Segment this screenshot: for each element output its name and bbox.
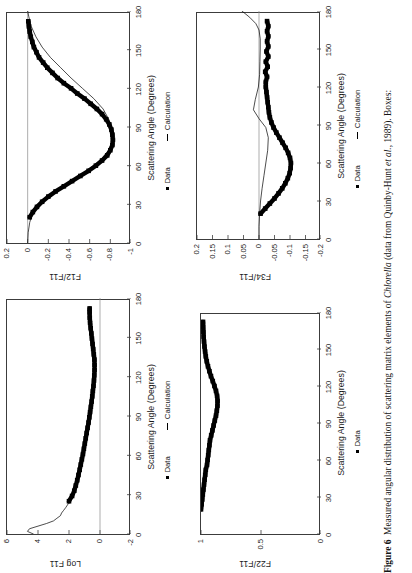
y-tick-label: -0.05	[269, 244, 278, 286]
chart-panel-f22-f11: F22/F11 10.50 0306090120150180 Scatterin…	[190, 287, 379, 573]
figure-caption-etal: et al.	[383, 147, 393, 166]
x-tick-label: 120	[324, 381, 333, 394]
x-tick-label: 60	[134, 162, 143, 170]
y-tick-label: 2	[64, 539, 73, 573]
legend-label-data: Data	[353, 165, 362, 181]
legend-label-calculation: Calculation	[163, 92, 172, 131]
x-tick-label: 120	[134, 83, 143, 96]
plot-area-f12	[6, 12, 130, 244]
figure-caption-label: Figure 6	[383, 540, 393, 573]
x-tick-label: 180	[134, 6, 143, 19]
plot-curves-f12	[7, 11, 131, 243]
x-tick-label: 150	[134, 332, 143, 345]
x-tick-label: 150	[324, 344, 333, 357]
series-calculation-path	[242, 11, 268, 239]
plot-curves-f22	[201, 312, 321, 534]
x-tick-label: 180	[324, 6, 333, 19]
y-tick-label: 0.1	[223, 244, 232, 286]
figure-caption-text-3: , 1989). Boxes:	[383, 90, 393, 147]
x-axis-title-log-f11: Scattering Angle (Degrees)	[146, 364, 156, 470]
legend-f12: Data Calculation	[163, 92, 172, 190]
y-tick-label: -0.1	[285, 244, 294, 286]
y-tick-label: -0.2	[43, 248, 52, 286]
y-tick-label: -1	[126, 248, 135, 286]
y-tick-label: 0	[254, 244, 263, 286]
legend-item-data-f12: Data	[163, 167, 172, 190]
legend-item-data-log-f11: Data	[163, 456, 172, 479]
legend-item-data-f22: Data	[353, 430, 362, 453]
x-tick-label: 0	[324, 533, 333, 537]
filled-square-marker-icon	[166, 187, 169, 190]
x-tick-label: 0	[134, 533, 143, 537]
x-tick-label: 180	[324, 307, 333, 320]
legend-item-calculation-log-f11: Calculation	[163, 381, 172, 431]
x-tick-label: 120	[134, 371, 143, 384]
chart-panel-f12-f11: F12/F11 0.20-0.2-0.4-0.6-0.8-1 030609012…	[0, 0, 189, 286]
x-tick-label: 150	[324, 44, 333, 57]
filled-square-marker-icon	[356, 185, 359, 188]
legend-label-data: Data	[163, 456, 172, 472]
y-tick-label: -0.15	[300, 244, 309, 286]
x-tick-label: 90	[134, 124, 143, 132]
y-tick-label: 0	[95, 539, 104, 573]
x-tick-label: 60	[324, 457, 333, 465]
plot-area-log-f11	[6, 299, 130, 535]
chart-panel-log-f11: Log F11 6420-2 0306090120150180 Scatteri…	[0, 287, 189, 573]
legend-item-data-f34: Data	[353, 165, 362, 188]
y-tick-label: 0	[316, 539, 325, 573]
series-calculation-path	[27, 308, 94, 534]
x-axis-title-f22: Scattering Angle (Degrees)	[336, 370, 346, 476]
y-tick-label: 0.15	[207, 244, 216, 286]
figure-caption-species: Chlorella	[383, 262, 393, 298]
legend-f22: Data	[353, 430, 362, 453]
x-tick-label: 150	[134, 44, 143, 57]
y-tick-label: 4	[33, 539, 42, 573]
y-tick-label: -0.8	[105, 248, 114, 286]
y-tick-label: -0.6	[84, 248, 93, 286]
line-marker-icon	[357, 132, 358, 139]
figure-panel-grid: F12/F11 0.20-0.2-0.4-0.6-0.8-1 030609012…	[0, 0, 378, 573]
filled-square-marker-icon	[166, 476, 169, 479]
series-data-path	[28, 21, 113, 217]
x-tick-label: 0	[324, 238, 333, 242]
figure-caption-text-2: (data from Quinby-Hunt	[383, 166, 393, 262]
line-marker-icon	[167, 423, 168, 430]
y-tick-label: 0.2	[2, 248, 11, 286]
y-tick-label: 0.05	[238, 244, 247, 286]
figure-caption: Figure 6 Measured angular distribution o…	[382, 0, 408, 573]
x-tick-label: 0	[134, 242, 143, 246]
x-tick-label: 90	[324, 420, 333, 428]
legend-item-calculation-f34: Calculation	[353, 90, 362, 140]
filled-square-marker-icon	[356, 450, 359, 453]
legend-log-f11: Data Calculation	[163, 381, 172, 479]
x-tick-label: 30	[134, 201, 143, 209]
x-tick-label: 180	[134, 293, 143, 306]
y-tick-label: -0.2	[316, 244, 325, 286]
figure-caption-text-1: Measured angular distribution of scatter…	[383, 298, 393, 535]
y-tick-label: 0.5	[256, 539, 265, 573]
legend-label-calculation: Calculation	[163, 381, 172, 420]
legend-label-data: Data	[163, 167, 172, 183]
legend-f34: Data Calculation	[353, 90, 362, 188]
chart-panel-f34-f11: F34/F11 0.20.150.10.050-0.05-0.1-0.15-0.…	[190, 0, 379, 286]
plot-area-f22	[200, 313, 320, 535]
plot-curves-f34	[197, 11, 321, 239]
legend-label-calculation: Calculation	[353, 90, 362, 129]
plot-curves-log-f11	[7, 298, 131, 534]
x-tick-label: 120	[324, 82, 333, 95]
x-tick-label: 60	[324, 160, 333, 168]
legend-item-calculation-f12: Calculation	[163, 92, 172, 142]
x-tick-label: 30	[324, 198, 333, 206]
x-tick-label: 90	[134, 413, 143, 421]
y-tick-label: -0.4	[64, 248, 73, 286]
x-tick-label: 90	[324, 122, 333, 130]
y-tick-label: 0	[22, 248, 31, 286]
plot-area-f34	[196, 12, 320, 240]
line-marker-icon	[167, 134, 168, 141]
x-tick-label: 30	[134, 491, 143, 499]
x-axis-title-f12: Scattering Angle (Degrees)	[146, 75, 156, 181]
series-calculation-path	[28, 11, 113, 243]
x-tick-label: 30	[324, 494, 333, 502]
y-tick-label: -2	[126, 539, 135, 573]
legend-label-data: Data	[353, 430, 362, 446]
